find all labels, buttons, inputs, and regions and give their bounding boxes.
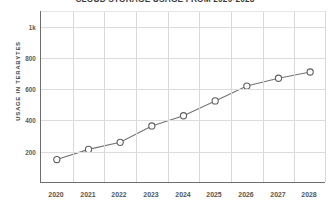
x-tick-label: 2028 bbox=[301, 190, 316, 199]
gridline-horizontal bbox=[41, 11, 325, 12]
gridline-horizontal bbox=[41, 120, 325, 121]
y-tick-label: 600 bbox=[25, 86, 36, 93]
data-point-marker bbox=[117, 139, 123, 145]
gridline-vertical bbox=[73, 11, 74, 182]
data-series-usage bbox=[41, 11, 326, 183]
x-axis-tick-labels: 202020212022202320242025202620272028 bbox=[0, 190, 330, 204]
gridline-vertical bbox=[294, 11, 295, 182]
gridline-vertical bbox=[136, 11, 137, 182]
x-tick-label: 2024 bbox=[175, 190, 190, 199]
data-point-marker bbox=[149, 123, 155, 129]
gridline-horizontal bbox=[41, 58, 325, 59]
y-axis-tick-labels: 1k 800 600 400 200 bbox=[0, 0, 36, 209]
x-tick-label: 2021 bbox=[80, 190, 95, 199]
data-point-marker bbox=[180, 113, 186, 119]
x-tick-label: 2025 bbox=[206, 190, 221, 199]
gridline-vertical bbox=[263, 11, 264, 182]
gridline-horizontal bbox=[41, 152, 325, 153]
y-tick-label: 800 bbox=[25, 54, 36, 61]
x-tick-label: 2020 bbox=[48, 190, 63, 199]
data-point-marker bbox=[54, 156, 60, 162]
gridline-horizontal bbox=[41, 89, 325, 90]
data-point-marker bbox=[307, 69, 313, 75]
gridline-horizontal bbox=[41, 27, 325, 28]
gridline-vertical bbox=[199, 11, 200, 182]
gridline-vertical bbox=[325, 11, 326, 182]
y-tick-label: 1k bbox=[29, 23, 36, 30]
y-tick-label: 200 bbox=[25, 148, 36, 155]
x-tick-label: 2022 bbox=[111, 190, 126, 199]
gridline-vertical bbox=[104, 11, 105, 182]
chart-figure: CLOUD STORAGE USAGE FROM 2020-2028 USAGE… bbox=[0, 0, 330, 209]
data-point-marker bbox=[212, 98, 218, 104]
x-tick-label: 2027 bbox=[270, 190, 285, 199]
y-tick-label: 400 bbox=[25, 117, 36, 124]
gridline-vertical bbox=[168, 11, 169, 182]
data-point-marker bbox=[275, 75, 281, 81]
chart-title: CLOUD STORAGE USAGE FROM 2020-2028 bbox=[13, 0, 317, 4]
plot-area bbox=[40, 11, 325, 183]
x-tick-label: 2023 bbox=[143, 190, 158, 199]
gridline-vertical bbox=[231, 11, 232, 182]
x-tick-label: 2026 bbox=[238, 190, 253, 199]
